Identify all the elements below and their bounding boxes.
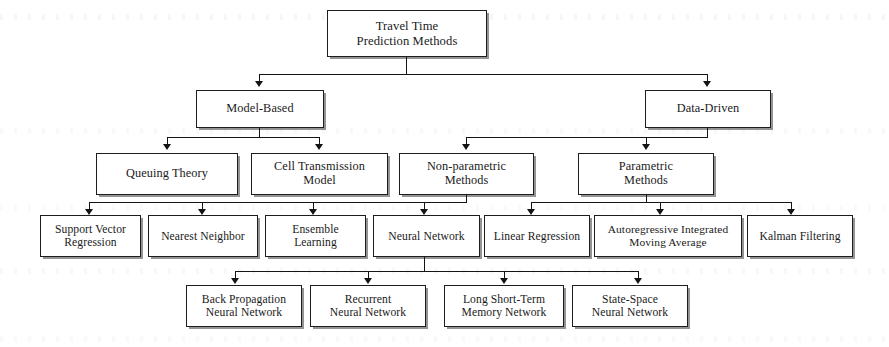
node-state-space-neural-network[interactable]: State-Space Neural Network [572, 285, 688, 327]
arrowhead-long-short-term-memory-network [500, 278, 508, 284]
node-label: Recurrent Neural Network [330, 293, 406, 319]
node-label: Back Propagation Neural Network [202, 293, 286, 319]
node-support-vector-regression[interactable]: Support Vector Regression [40, 215, 141, 257]
node-ensemble-learning[interactable]: Ensemble Learning [265, 215, 366, 257]
arrowhead-non-parametric-methods [462, 144, 470, 150]
node-label: Long Short-Term Memory Network [462, 293, 547, 319]
connector-non-parametric-bus [89, 202, 467, 203]
node-autoregressive-integrated-moving-average[interactable]: Autoregressive Integrated Moving Average [594, 215, 742, 257]
node-non-parametric-methods[interactable]: Non-parametric Methods [399, 153, 534, 195]
node-cell-transmission-model[interactable]: Cell Transmission Model [251, 153, 388, 195]
node-label: Linear Regression [494, 230, 580, 243]
arrowhead-back-propagation-neural-network [231, 278, 239, 284]
scan-artifact-band [0, 128, 889, 134]
node-label: Model-Based [226, 102, 293, 116]
node-back-propagation-neural-network[interactable]: Back Propagation Neural Network [186, 285, 302, 327]
node-model-based[interactable]: Model-Based [196, 90, 324, 128]
connector-neural-network-bus [235, 271, 639, 272]
arrowhead-recurrent-neural-network [364, 278, 372, 284]
node-nearest-neighbor[interactable]: Nearest Neighbor [148, 215, 258, 257]
node-label: Travel Time Prediction Methods [357, 19, 458, 47]
node-neural-network[interactable]: Neural Network [373, 215, 480, 257]
connector-data-driven-bus [466, 137, 708, 138]
connector-root-bus [259, 74, 708, 75]
node-label: Support Vector Regression [55, 223, 126, 249]
arrowhead-parametric-methods [642, 144, 650, 150]
connector-neural-network-stem [424, 257, 425, 272]
arrowhead-cell-transmission-model [315, 144, 323, 150]
node-label: Cell Transmission Model [274, 160, 365, 188]
arrowhead-state-space-neural-network [634, 278, 642, 284]
node-linear-regression[interactable]: Linear Regression [484, 215, 590, 257]
node-travel-time-prediction-methods[interactable]: Travel Time Prediction Methods [327, 10, 487, 57]
arrowhead-model-based [255, 81, 263, 87]
node-parametric-methods[interactable]: Parametric Methods [578, 153, 714, 195]
node-label: Queuing Theory [126, 167, 208, 181]
node-label: Neural Network [388, 230, 464, 243]
node-long-short-term-memory-network[interactable]: Long Short-Term Memory Network [444, 285, 564, 327]
node-recurrent-neural-network[interactable]: Recurrent Neural Network [310, 285, 426, 327]
node-kalman-filtering[interactable]: Kalman Filtering [747, 215, 853, 257]
node-label: Non-parametric Methods [427, 160, 506, 188]
node-label: Autoregressive Integrated Moving Average [608, 223, 728, 249]
scan-artifact-band [0, 205, 889, 211]
node-data-driven[interactable]: Data-Driven [645, 90, 771, 128]
node-queuing-theory[interactable]: Queuing Theory [96, 153, 238, 195]
arrowhead-queuing-theory [163, 144, 171, 150]
node-label: Nearest Neighbor [161, 230, 245, 243]
node-label: Kalman Filtering [759, 230, 840, 243]
scan-artifact-band [0, 336, 889, 342]
node-label: Data-Driven [677, 102, 740, 116]
node-label: Parametric Methods [619, 160, 673, 188]
connector-root-stem [406, 57, 407, 75]
node-label: Ensemble Learning [292, 223, 339, 249]
connector-model-based-bus [167, 137, 320, 138]
node-label: State-Space Neural Network [592, 293, 668, 319]
connector-parametric-bus [531, 202, 792, 203]
arrowhead-data-driven [703, 81, 711, 87]
diagram-canvas: Travel Time Prediction Methods Model-Bas… [0, 0, 889, 347]
